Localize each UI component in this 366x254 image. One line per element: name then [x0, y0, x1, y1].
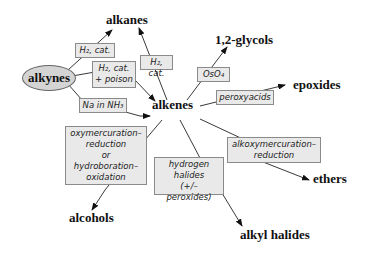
reagent-label: OsO₄ — [200, 69, 227, 80]
reagent-label: peroxyacids — [219, 92, 271, 103]
reagent-label: reduction — [230, 150, 318, 161]
reagent-oxymercuration-hydroboration: oxymercuration– reduction or hydroborati… — [65, 126, 147, 185]
reagent-label: Na in NH₃ — [82, 100, 124, 111]
reagent-label: H₂, cat. — [78, 45, 112, 56]
reagent-na-nh3: Na in NH₃ — [79, 98, 127, 113]
node-alkynes: alkynes — [22, 70, 76, 86]
connector-lines — [0, 0, 366, 254]
reagent-label: oxymercuration– — [68, 128, 144, 139]
node-alkenes: alkenes — [152, 98, 193, 111]
node-epoxides: epoxides — [293, 78, 341, 91]
node-alkanes: alkanes — [106, 13, 148, 26]
node-glycols: 1,2-glycols — [215, 33, 273, 46]
reagent-hydrogen-halides: hydrogen halides (+/– peroxides) — [154, 157, 224, 195]
reagent-label: hydrogen — [157, 159, 221, 170]
node-alcohols: alcohols — [69, 211, 114, 224]
reagent-label: oxidation — [68, 172, 144, 183]
reagent-peroxyacids: peroxyacids — [216, 90, 274, 105]
reagent-h2-cat-poison: H₂, cat. + poison — [92, 61, 136, 88]
reagent-label: hydroboration– — [68, 161, 144, 172]
reagent-label: or — [68, 150, 144, 161]
reagent-label: H₂, cat. — [95, 63, 133, 74]
reagent-h2-cat-alkene: H₂, cat. — [140, 55, 173, 70]
reagent-label: reduction — [68, 139, 144, 150]
reagent-label: H₂, cat. — [143, 57, 170, 79]
reagent-label: alkoxymercuration– — [230, 139, 318, 150]
node-alkyl-halides: alkyl halides — [240, 228, 310, 241]
reagent-h2-cat-alkyne: H₂, cat. — [75, 43, 115, 58]
node-ethers: ethers — [313, 172, 347, 185]
reagent-label: + poison — [95, 74, 133, 85]
reagent-label: (+/– peroxides) — [157, 181, 221, 203]
reagent-oso4: OsO₄ — [197, 67, 230, 82]
alkyne-alkene-reaction-map: alkanes alkynes alkenes 1,2-glycols epox… — [0, 0, 366, 254]
reagent-alkoxymercuration: alkoxymercuration– reduction — [227, 137, 321, 163]
reagent-label: halides — [157, 170, 221, 181]
